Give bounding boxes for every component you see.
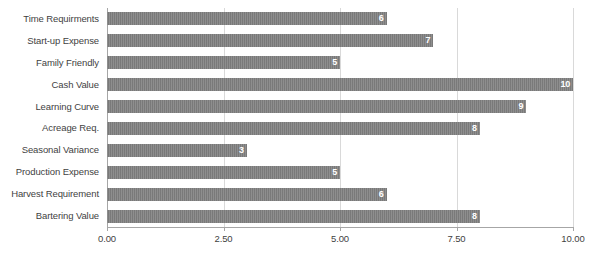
y-axis-category-label: Production Expense	[0, 166, 99, 178]
bar-row: 6	[107, 12, 573, 25]
y-axis-category-label: Bartering Value	[0, 210, 99, 222]
bar-row: 3	[107, 144, 573, 157]
y-axis-category-label: Seasonal Variance	[0, 144, 99, 156]
bar-row: 10	[107, 78, 573, 91]
bar-value-label: 6	[379, 188, 384, 201]
bar: 7	[107, 34, 433, 47]
bar-value-label: 6	[379, 12, 384, 25]
x-axis-tick-label: 7.50	[427, 233, 487, 244]
x-axis-tick-5.00	[340, 227, 341, 231]
bar: 10	[107, 78, 573, 91]
plot-area: 67510983568	[107, 8, 573, 227]
bar-value-label: 5	[332, 56, 337, 69]
y-axis-category-label: Family Friendly	[0, 57, 99, 69]
x-axis-tick-0.00	[107, 227, 108, 231]
bar-value-label: 9	[519, 100, 524, 113]
bar: 5	[107, 166, 340, 179]
bar-row: 8	[107, 210, 573, 223]
y-axis-category-label: Start-up Expense	[0, 35, 99, 47]
x-axis-tick-label: 10.00	[543, 233, 598, 244]
bar: 8	[107, 122, 480, 135]
y-axis-category-labels: Time RequirmentsStart-up ExpenseFamily F…	[0, 8, 99, 227]
bar-row: 6	[107, 188, 573, 201]
bar-row: 5	[107, 166, 573, 179]
x-axis-tick-10.00	[573, 227, 574, 231]
bar-chart: Time RequirmentsStart-up ExpenseFamily F…	[0, 0, 598, 257]
y-axis-category-label: Harvest Requirement	[0, 188, 99, 200]
x-axis-tick-label: 0.00	[77, 233, 137, 244]
bar: 6	[107, 12, 387, 25]
bar-row: 5	[107, 56, 573, 69]
bar: 6	[107, 188, 387, 201]
bar: 5	[107, 56, 340, 69]
bar: 9	[107, 100, 526, 113]
y-axis-category-label: Acreage Req.	[0, 122, 99, 134]
bar-value-label: 3	[239, 144, 244, 157]
bar-value-label: 8	[472, 210, 477, 223]
x-axis-tick-2.50	[224, 227, 225, 231]
gridline-10.00	[573, 8, 574, 227]
bar-value-label: 10	[560, 78, 570, 91]
bar-value-label: 5	[332, 166, 337, 179]
bar: 3	[107, 144, 247, 157]
y-axis-category-label: Learning Curve	[0, 101, 99, 113]
bar-row: 7	[107, 34, 573, 47]
bar-value-label: 8	[472, 122, 477, 135]
bar-row: 9	[107, 100, 573, 113]
x-axis-tick-label: 5.00	[310, 233, 370, 244]
bar: 8	[107, 210, 480, 223]
x-axis-tick-label: 2.50	[194, 233, 254, 244]
bar-value-label: 7	[425, 34, 430, 47]
x-axis-tick-7.50	[457, 227, 458, 231]
y-axis-category-label: Cash Value	[0, 79, 99, 91]
bar-row: 8	[107, 122, 573, 135]
y-axis-category-label: Time Requirments	[0, 13, 99, 25]
